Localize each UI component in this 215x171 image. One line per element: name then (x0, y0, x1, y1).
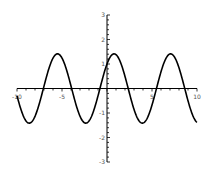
y-tick-label: 2 (101, 36, 105, 43)
y-tick-label: -3 (99, 158, 105, 165)
x-tick-label: -5 (59, 93, 65, 100)
y-tick-label: 3 (101, 11, 105, 18)
y-tick-label: -2 (99, 134, 105, 141)
y-tick-label: 1 (101, 60, 105, 67)
line-chart: -10-5510321-1-2-3 (0, 0, 215, 171)
y-tick-label: -1 (99, 109, 105, 116)
x-tick-label: 10 (193, 93, 201, 100)
